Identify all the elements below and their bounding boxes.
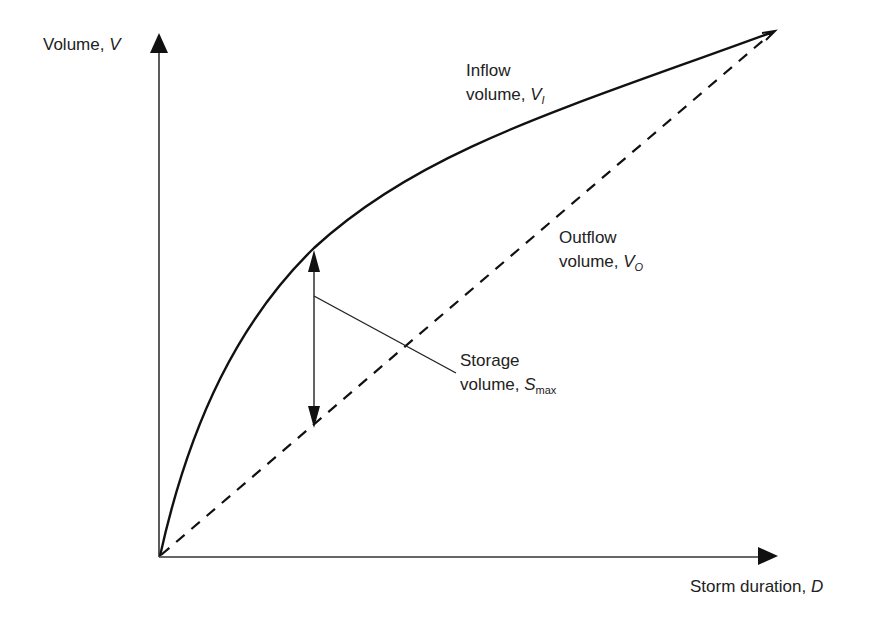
x-axis-symbol: D [811, 577, 823, 596]
y-axis-label-text: Volume, [43, 35, 109, 54]
diagram-canvas [0, 0, 884, 626]
x-axis-label-text: Storm duration, [690, 577, 811, 596]
storage-label-text: volume, [460, 375, 524, 394]
outflow-label-line2: volume, VO [559, 251, 643, 274]
x-axis-arrowhead-icon [758, 547, 778, 565]
outflow-label-line1: Outflow [559, 227, 643, 248]
inflow-label: Inflow volume, VI [466, 60, 545, 107]
outflow-symbol: V [623, 252, 634, 271]
outflow-line [161, 32, 773, 555]
storage-label-line2: volume, Smax [460, 374, 556, 397]
x-axis-label: Storm duration, D [690, 576, 823, 597]
inflow-label-text: volume, [466, 85, 530, 104]
x-axis [159, 547, 778, 565]
outflow-label: Outflow volume, VO [559, 227, 643, 274]
inflow-subscript: I [542, 94, 545, 106]
inflow-symbol: V [530, 85, 541, 104]
storage-double-arrow [308, 250, 320, 428]
storage-symbol: S [524, 375, 535, 394]
inflow-label-line1: Inflow [466, 60, 545, 81]
storage-subscript: max [536, 384, 557, 396]
y-axis-label: Volume, V [43, 34, 121, 55]
arrow-down-icon [308, 406, 320, 428]
storage-leader-line [314, 296, 456, 373]
storage-label: Storage volume, Smax [460, 350, 556, 397]
storage-label-line1: Storage [460, 350, 556, 371]
y-axis-arrowhead-icon [150, 33, 168, 53]
outflow-label-text: volume, [559, 252, 623, 271]
y-axis [150, 33, 168, 557]
y-axis-symbol: V [109, 35, 120, 54]
outflow-subscript: O [635, 261, 644, 273]
inflow-label-line2: volume, VI [466, 84, 545, 107]
